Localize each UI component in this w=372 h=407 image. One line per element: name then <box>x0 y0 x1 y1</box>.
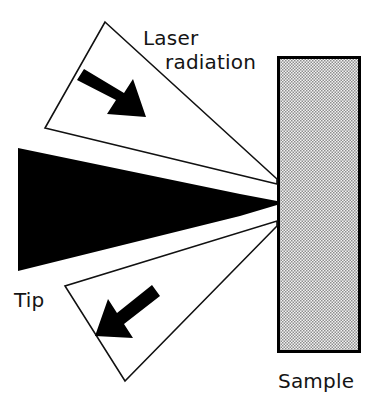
near-field-microscopy-diagram: Laser radiation Tip Sample <box>0 0 372 407</box>
sample-slab <box>279 58 360 352</box>
laser-label-line1: Laser <box>143 26 199 50</box>
tip-label: Tip <box>13 288 44 312</box>
sample-rect <box>279 58 360 352</box>
laser-label-line2: radiation <box>165 50 256 74</box>
sample-label: Sample <box>278 369 354 393</box>
diagram-canvas: Laser radiation Tip Sample <box>0 0 372 407</box>
